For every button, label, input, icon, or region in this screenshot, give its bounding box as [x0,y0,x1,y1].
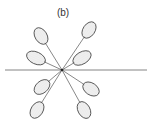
figure-label: (b) [57,7,69,18]
lobe-lower-right-near [80,79,102,99]
lobe-lower-right-far [74,99,93,121]
lobe-lower-left-near [31,77,52,98]
lobe-stem [62,63,74,70]
lobe-upper-left-near [24,48,47,67]
lobe-stem [62,70,80,103]
lobe-stem [48,70,62,82]
lobe-stem [62,70,84,85]
center-point [61,69,64,72]
lobe-upper-left-far [31,25,51,47]
lobe-diagram: (b) [0,0,152,127]
lobe-upper-right-near [70,48,93,69]
lobe-lower-left-far [27,99,47,121]
lobe-upper-right-far [79,19,99,41]
